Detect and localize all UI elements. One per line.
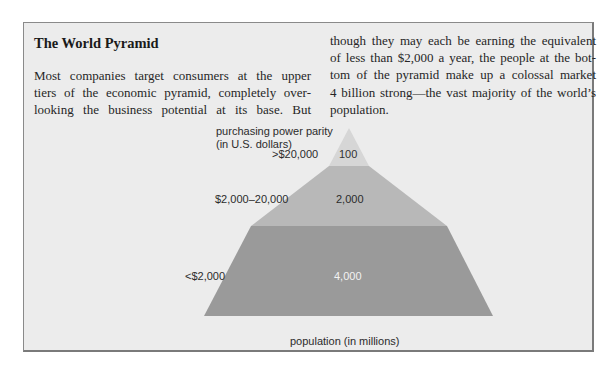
tier-population-middle: 2,000 xyxy=(336,193,364,206)
tier-income-label-bottom: <$2,000 xyxy=(185,270,225,283)
x-axis-label: population (in millions) xyxy=(290,335,399,348)
tier-population-bottom: 4,000 xyxy=(334,270,362,283)
pyramid-diagram xyxy=(0,0,615,374)
tier-income-label-middle: $2,000–20,000 xyxy=(215,193,288,206)
y-axis-label-line1: purchasing power parity xyxy=(216,125,333,137)
tier-income-label-top: >$20,000 xyxy=(272,148,318,161)
tier-population-top: 100 xyxy=(339,148,357,161)
